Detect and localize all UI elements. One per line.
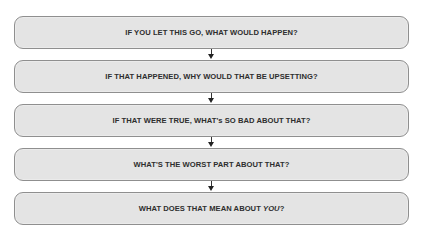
step-label-3: IF THAT WERE TRUE, WHAT's SO BAD ABOUT T… <box>113 116 311 125</box>
step-box-5: WHAT DOES THAT MEAN ABOUT YOU? <box>14 192 409 225</box>
step-box-3: IF THAT WERE TRUE, WHAT's SO BAD ABOUT T… <box>14 104 409 137</box>
step-text-2: IF THAT HAPPENED, WHY WOULD THAT BE UPSE… <box>105 72 317 81</box>
arrow-down-icon <box>208 142 214 147</box>
step-label-5: WHAT DOES THAT MEAN ABOUT YOU? <box>139 204 285 213</box>
step-text-5: WHAT DOES THAT MEAN ABOUT <box>139 204 263 213</box>
step-text-3: IF THAT WERE TRUE, WHAT's SO BAD ABOUT T… <box>113 116 311 125</box>
step-label-1: IF YOU LET THIS GO, WHAT WOULD HAPPEN? <box>125 28 297 37</box>
step-text-5-suffix: ? <box>280 204 285 213</box>
step-box-2: IF THAT HAPPENED, WHY WOULD THAT BE UPSE… <box>14 60 409 93</box>
flowchart: IF YOU LET THIS GO, WHAT WOULD HAPPEN? I… <box>14 16 409 225</box>
arrow-down-icon <box>208 98 214 103</box>
connector-1-2 <box>14 49 409 60</box>
connector-2-3 <box>14 93 409 104</box>
arrow-down-icon <box>208 186 214 191</box>
step-text-5-emphasis: YOU <box>263 204 280 213</box>
step-label-4: WHAT'S THE WORST PART ABOUT THAT? <box>134 160 290 169</box>
step-label-2: IF THAT HAPPENED, WHY WOULD THAT BE UPSE… <box>105 72 317 81</box>
step-box-1: IF YOU LET THIS GO, WHAT WOULD HAPPEN? <box>14 16 409 49</box>
connector-3-4 <box>14 137 409 148</box>
step-box-4: WHAT'S THE WORST PART ABOUT THAT? <box>14 148 409 181</box>
connector-4-5 <box>14 181 409 192</box>
step-text-1: IF YOU LET THIS GO, WHAT WOULD HAPPEN? <box>125 28 297 37</box>
arrow-down-icon <box>208 54 214 59</box>
step-text-4: WHAT'S THE WORST PART ABOUT THAT? <box>134 160 290 169</box>
